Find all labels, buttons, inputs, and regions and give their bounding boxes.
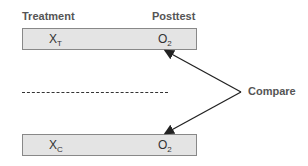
compare-label: Compare — [248, 85, 296, 97]
compare-arrows — [0, 0, 308, 166]
